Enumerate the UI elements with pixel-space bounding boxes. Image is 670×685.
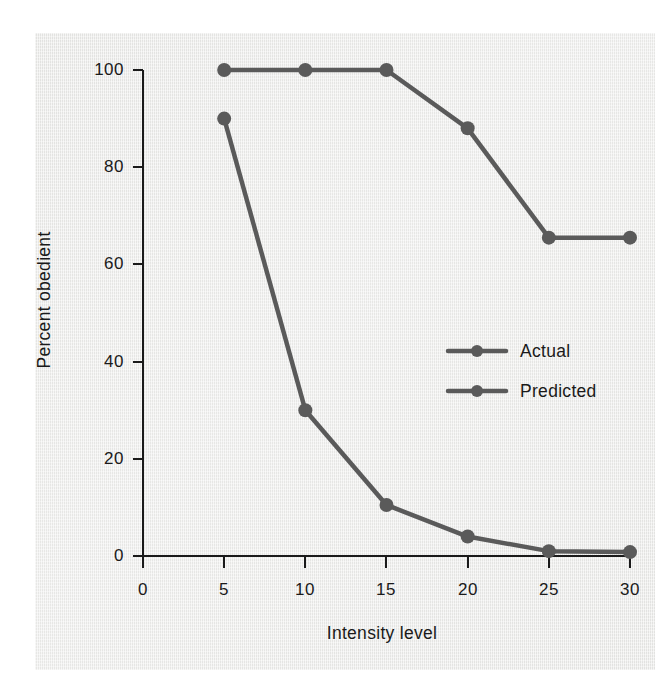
- chart-page: 100 80 60 40 20 0 0 5 10 15 20 25 30 Per…: [0, 0, 670, 685]
- legend-label-actual: Actual: [520, 341, 570, 362]
- y-tick-label: 20: [78, 449, 124, 469]
- y-axis-title: Percent obedient: [34, 231, 55, 368]
- data-point: [298, 403, 312, 417]
- data-points-predicted: [217, 63, 637, 245]
- data-point: [380, 63, 394, 77]
- data-point: [542, 231, 556, 245]
- data-point: [542, 544, 556, 558]
- data-point: [217, 63, 231, 77]
- legend-marker-predicted: [448, 385, 506, 397]
- data-point: [461, 530, 475, 544]
- legend-marker-actual: [448, 345, 506, 357]
- x-tick-label: 5: [219, 580, 229, 600]
- y-tick-marks: [133, 70, 143, 556]
- x-tick-label: 15: [376, 580, 396, 600]
- y-tick-label: 0: [78, 546, 124, 566]
- y-tick-label: 80: [78, 157, 124, 177]
- x-axis-title: Intensity level: [327, 623, 438, 644]
- x-tick-label: 10: [295, 580, 315, 600]
- x-tick-label: 25: [539, 580, 559, 600]
- data-point: [217, 112, 231, 126]
- data-point: [623, 231, 637, 245]
- data-point: [380, 498, 394, 512]
- x-tick-marks: [143, 556, 630, 568]
- x-tick-label: 30: [620, 580, 640, 600]
- y-tick-label: 40: [78, 352, 124, 372]
- x-tick-label: 0: [138, 580, 148, 600]
- x-tick-label: 20: [458, 580, 478, 600]
- series-actual: [217, 112, 637, 560]
- data-point: [298, 63, 312, 77]
- data-point: [461, 121, 475, 135]
- y-tick-label: 100: [78, 60, 124, 80]
- legend-label-predicted: Predicted: [520, 381, 597, 402]
- series-predicted: [217, 63, 637, 245]
- data-points-actual: [217, 112, 637, 560]
- y-tick-label: 60: [78, 254, 124, 274]
- data-point: [623, 545, 637, 559]
